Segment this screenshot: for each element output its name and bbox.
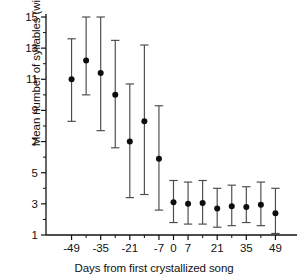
x-tick-label: -35: [92, 242, 109, 254]
x-tick-label: 21: [211, 242, 224, 254]
data-point-group: [67, 39, 75, 122]
x-tick-label: 0: [170, 242, 176, 254]
data-point-group: [257, 182, 265, 226]
data-point-group: [111, 40, 119, 147]
data-point-group: [155, 106, 163, 210]
data-point-group: [140, 45, 148, 194]
y-tick-label: 5: [32, 167, 38, 179]
x-axis-title-text: Days from first crystallized song: [74, 262, 233, 274]
x-tick-label: -21: [122, 242, 139, 254]
x-tick-label: -7: [154, 242, 164, 254]
data-point-group: [198, 181, 206, 225]
x-tick-label: 7: [185, 242, 191, 254]
data-point-group: [82, 17, 90, 95]
data-point-group: [184, 182, 192, 224]
data-point-group: [228, 185, 236, 225]
chart-container: 13579111315-49-35-21-707213549 Mean numb…: [0, 0, 308, 279]
data-point-group: [169, 181, 177, 223]
x-tick-label: 35: [240, 242, 253, 254]
data-point-group: [96, 17, 104, 131]
x-axis-title: Days from first crystallized song: [0, 258, 308, 276]
data-point-group: [271, 188, 279, 233]
x-tick-label: -49: [63, 242, 80, 254]
data-point-group: [126, 84, 134, 198]
x-tick-label: 49: [269, 242, 282, 254]
y-tick-label: 3: [32, 198, 38, 210]
data-point-group: [242, 187, 250, 223]
scatter-plot-with-error-bars: 13579111315-49-35-21-707213549: [0, 0, 308, 279]
y-axis-title-text: Mean number of syllables (with sd): [30, 0, 42, 146]
y-tick-label: 1: [32, 229, 38, 241]
data-point-group: [213, 188, 221, 227]
y-axis-title: Mean number of syllables (with sd): [26, 0, 40, 154]
